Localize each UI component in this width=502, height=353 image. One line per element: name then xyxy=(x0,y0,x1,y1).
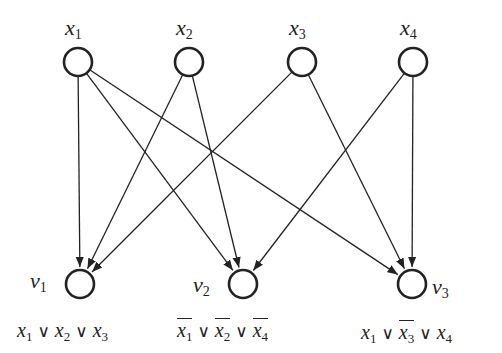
or-symbol: ∨ xyxy=(37,321,49,341)
node-v3 xyxy=(398,270,426,298)
node-v2 xyxy=(229,270,257,298)
negated-literal-x3: x3 xyxy=(399,320,414,345)
formula-v1: x1∨x2∨x3 xyxy=(17,320,108,343)
label-x4: x4 xyxy=(400,17,417,42)
literal-x1: x1 xyxy=(361,322,376,345)
or-symbol: ∨ xyxy=(419,323,431,343)
literal-x1: x1 xyxy=(17,320,32,343)
literal-x2: x2 xyxy=(55,320,70,343)
negated-literal-x2: x2 xyxy=(215,318,230,343)
label-x2: x2 xyxy=(176,17,193,42)
negated-literal-x4: x4 xyxy=(253,318,268,343)
negated-literal-x1: x1 xyxy=(177,318,192,343)
edge-x2-v2 xyxy=(192,76,239,268)
edges xyxy=(78,70,413,275)
node-x4 xyxy=(399,48,427,76)
edge-x1-v3 xyxy=(90,70,398,275)
bipartite-graph xyxy=(0,0,502,353)
edge-x1-v2 xyxy=(86,73,233,270)
label-v1: v1 xyxy=(30,270,47,295)
label-x3: x3 xyxy=(289,17,306,42)
edge-x3-v1 xyxy=(92,72,292,272)
literal-x4: x4 xyxy=(437,322,452,345)
label-v3: v3 xyxy=(432,276,449,301)
formula-v3: x1∨x3∨x4 xyxy=(361,320,452,345)
or-symbol: ∨ xyxy=(381,323,393,343)
literal-x3: x3 xyxy=(93,320,108,343)
node-x1 xyxy=(64,48,92,76)
node-v1 xyxy=(66,270,94,298)
edge-x3-v3 xyxy=(308,75,404,269)
or-symbol: ∨ xyxy=(235,321,247,341)
edge-x2-v1 xyxy=(87,75,182,269)
edge-x1-v1 xyxy=(78,76,80,267)
formula-v2: x1∨x2∨x4 xyxy=(177,318,268,343)
edge-x4-v3 xyxy=(412,76,413,267)
or-symbol: ∨ xyxy=(197,321,209,341)
label-v2: v2 xyxy=(193,274,210,299)
label-x1: x1 xyxy=(65,17,82,42)
or-symbol: ∨ xyxy=(75,321,87,341)
node-x3 xyxy=(288,48,316,76)
node-x2 xyxy=(175,48,203,76)
edge-x4-v2 xyxy=(253,73,404,270)
